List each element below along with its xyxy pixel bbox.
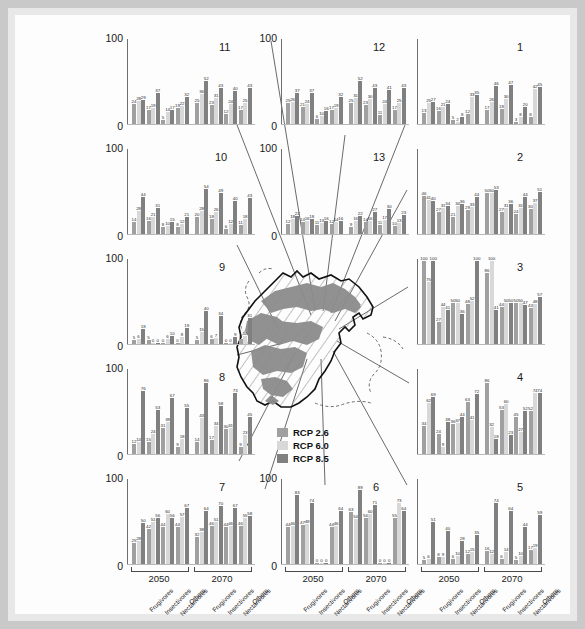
bar: 11 [315, 225, 319, 234]
bar-value-label: 41 [494, 305, 499, 310]
legend-item-2: RCP 8.5 [277, 452, 329, 464]
bar: 63 [466, 402, 470, 454]
bar-value-label: 58 [247, 511, 252, 516]
bar: 31 [229, 428, 233, 454]
bar: 0 [156, 343, 160, 344]
bar: 40 [204, 311, 208, 344]
bar: 14 [132, 222, 136, 234]
bar-value-label: 18 [141, 324, 146, 329]
bar-value-label: 6 [239, 334, 241, 339]
bar: 38 [446, 422, 450, 454]
bar: 12 [490, 554, 494, 564]
bar-value-label: 52 [204, 76, 209, 81]
bar: 49 [219, 193, 223, 234]
y-axis-max-label: 100 [97, 362, 123, 374]
bar: 55 [243, 518, 247, 564]
bar-value-label: 0 [325, 558, 327, 563]
bar: 53 [494, 190, 498, 234]
bar: 50 [504, 303, 508, 345]
bar: 34 [219, 316, 223, 344]
bar: 5 [161, 120, 165, 124]
bar-value-label: 63 [349, 507, 354, 512]
legend-item-1: RCP 6.0 [277, 439, 329, 451]
bar: 64 [204, 511, 208, 564]
bar: 17 [393, 110, 397, 124]
bar: 47 [523, 305, 527, 344]
bar-value-label: 100 [473, 256, 480, 261]
bar: 5 [514, 560, 518, 564]
y-axis-min-label: 0 [97, 340, 123, 352]
bar-value-label: 43 [218, 83, 223, 88]
bar: 18 [310, 219, 314, 234]
chart-panel-6: 1000644468347487400044466463548956607100… [281, 479, 409, 565]
bar-value-label: 6 [137, 334, 139, 339]
bar: 0 [161, 343, 165, 344]
bar: 100 [431, 261, 435, 344]
chart-panel-13: 1000131218221416181113161214169162214162… [281, 149, 409, 235]
bar: 24 [132, 104, 136, 124]
bar: 32 [490, 427, 494, 454]
bar-value-label: 63 [465, 397, 470, 402]
bar: 25 [286, 103, 290, 124]
bar: 31 [156, 208, 160, 234]
bar: 30 [224, 429, 228, 454]
bar-value-label: 51 [431, 517, 436, 522]
bar: 50 [509, 303, 513, 345]
bar: 55 [393, 518, 397, 564]
bar: 34 [456, 206, 460, 234]
bar: 8 [460, 117, 464, 124]
bar: 5 [147, 340, 151, 344]
period-label: 2050 [285, 573, 341, 584]
bar: 70 [219, 506, 223, 564]
bar: 6 [224, 229, 228, 234]
bar-value-label: 36 [460, 199, 465, 204]
bar: 100 [475, 261, 479, 344]
bar: 64 [509, 511, 513, 564]
bar-value-label: 0 [162, 338, 164, 343]
bar: 34 [214, 426, 218, 454]
bar: 64 [402, 511, 406, 564]
bar-value-label: 67 [233, 503, 238, 508]
bar: 21 [301, 107, 305, 124]
bar-value-label: 8 [437, 552, 439, 557]
bar: 50 [451, 303, 455, 345]
bar-value-label: 46 [494, 81, 499, 86]
y-axis-min-label: 0 [97, 120, 123, 132]
bar: 0 [224, 343, 228, 344]
bar: 52 [529, 411, 533, 454]
bar: 43 [248, 198, 252, 234]
bar: 21 [185, 217, 189, 234]
bar: 46 [494, 86, 498, 124]
bar: 20 [523, 107, 527, 124]
bar: 74 [310, 503, 314, 564]
bar: 5 [195, 340, 199, 344]
bar: 50 [490, 193, 494, 235]
bar-value-label: 32 [489, 422, 494, 427]
bar: 76 [141, 391, 145, 454]
bar: 11 [378, 115, 382, 124]
bar-value-label: 8 [461, 112, 463, 117]
bar: 52 [523, 411, 527, 454]
bar: 12 [286, 224, 290, 234]
bar: 14 [504, 552, 508, 564]
bar: 27 [437, 322, 441, 344]
bar-value-label: 18 [309, 214, 314, 219]
bar: 16 [324, 221, 328, 234]
bar: 0 [324, 563, 328, 564]
legend-item-0: RCP 2.6 [277, 426, 329, 438]
y-axis-max-label: 100 [97, 142, 123, 154]
bar-value-label: 8 [176, 222, 178, 227]
bar: 48 [533, 304, 537, 344]
bar-value-label: 40 [233, 196, 238, 201]
category-axis: 2050FrugivoresInsectivoresNectarivoresOt… [417, 565, 545, 625]
bar-value-label: 27 [431, 97, 436, 102]
y-axis-max-label: 100 [251, 32, 277, 44]
bar: 9 [176, 447, 180, 454]
bar-value-label: 6 [452, 554, 454, 559]
bar-value-label: 11 [238, 220, 243, 225]
bar: 30 [387, 209, 391, 234]
bar-value-label: 29 [141, 95, 146, 100]
bar: 26 [214, 212, 218, 234]
plot-area: 5651894061028121535161274614645104417195… [418, 479, 545, 564]
bar-value-label: 100 [488, 256, 495, 261]
